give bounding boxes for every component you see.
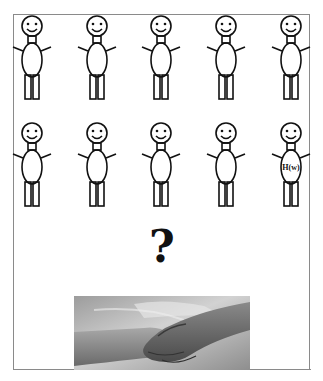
figure-neck	[287, 143, 295, 150]
figure-eye	[156, 130, 159, 133]
figure-body	[22, 43, 42, 77]
figure-smile	[221, 29, 231, 32]
figure-left-arm	[142, 47, 152, 51]
stick-figure	[142, 16, 180, 99]
stick-figure	[78, 123, 116, 206]
figure-left-arm	[78, 154, 88, 158]
figure-right-arm	[170, 47, 180, 51]
figure-head	[87, 123, 107, 143]
stick-figure	[142, 123, 180, 206]
figure-eye	[156, 23, 159, 26]
figure-right-leg	[227, 182, 233, 206]
figure-eye	[229, 130, 232, 133]
figure-eye	[294, 130, 297, 133]
figure-body	[87, 150, 107, 184]
figure-right-arm	[41, 47, 51, 51]
stick-figure	[207, 123, 245, 206]
figure-neck	[93, 36, 101, 43]
figure-right-leg	[33, 75, 39, 99]
figure-smile	[221, 136, 231, 139]
figure-eye	[286, 23, 289, 26]
figure-left-leg	[25, 182, 31, 206]
figure-head	[151, 16, 171, 36]
figure-head	[281, 123, 301, 143]
figure-left-arm	[78, 47, 88, 51]
figure-left-arm	[207, 154, 217, 158]
figure-smile	[27, 136, 37, 139]
figure-right-arm	[235, 154, 245, 158]
figure-head	[216, 123, 236, 143]
figure-smile	[27, 29, 37, 32]
figure-head	[151, 123, 171, 143]
stick-figure	[13, 16, 51, 99]
figure-neck	[28, 36, 36, 43]
figure-right-arm	[170, 154, 180, 158]
figure-right-leg	[33, 182, 39, 206]
question-mark: ?	[140, 222, 184, 272]
figure-left-leg	[154, 182, 160, 206]
figure-eye	[27, 130, 30, 133]
figure-left-leg	[90, 182, 96, 206]
figure-left-leg	[154, 75, 160, 99]
figure-eye	[221, 23, 224, 26]
figure-label: H(w)	[282, 163, 300, 172]
figure-right-arm	[41, 154, 51, 158]
figure-body	[216, 43, 236, 77]
figure-eye	[35, 130, 38, 133]
figure-right-leg	[292, 75, 298, 99]
figure-smile	[286, 136, 296, 139]
figure-body	[22, 150, 42, 184]
figure-right-arm	[235, 47, 245, 51]
figure-neck	[157, 143, 165, 150]
figure-head	[281, 16, 301, 36]
figure-left-arm	[272, 47, 282, 51]
stick-figure	[272, 16, 310, 99]
figure-head	[216, 16, 236, 36]
figure-left-arm	[13, 47, 23, 51]
figure-eye	[92, 23, 95, 26]
figure-body	[151, 43, 171, 77]
figure-left-leg	[284, 182, 290, 206]
figure-right-arm	[106, 47, 116, 51]
figure-right-arm	[300, 154, 310, 158]
figure-eye	[100, 23, 103, 26]
figure-smile	[156, 29, 166, 32]
figure-right-leg	[292, 182, 298, 206]
figure-body	[87, 43, 107, 77]
figure-neck	[93, 143, 101, 150]
figure-eye	[286, 130, 289, 133]
figure-right-arm	[300, 47, 310, 51]
figure-left-leg	[219, 75, 225, 99]
figure-right-leg	[98, 75, 104, 99]
figure-eye	[100, 130, 103, 133]
figure-body	[151, 150, 171, 184]
figure-head	[22, 16, 42, 36]
figure-eye	[92, 130, 95, 133]
figure-left-leg	[90, 75, 96, 99]
figure-left-leg	[284, 75, 290, 99]
figure-left-leg	[219, 182, 225, 206]
figure-left-arm	[142, 154, 152, 158]
figure-right-leg	[227, 75, 233, 99]
figure-right-leg	[162, 182, 168, 206]
figure-smile	[92, 29, 102, 32]
figure-right-leg	[162, 75, 168, 99]
figure-smile	[156, 136, 166, 139]
stick-figure	[207, 16, 245, 99]
handshake-photo	[74, 296, 250, 370]
figure-left-arm	[13, 154, 23, 158]
figure-eye	[294, 23, 297, 26]
figure-body	[281, 43, 301, 77]
figure-smile	[286, 29, 296, 32]
figure-left-arm	[207, 47, 217, 51]
stick-figure	[78, 16, 116, 99]
figure-eye	[27, 23, 30, 26]
figure-eye	[164, 130, 167, 133]
figure-head	[87, 16, 107, 36]
figure-eye	[35, 23, 38, 26]
figure-left-arm	[272, 154, 282, 158]
figure-neck	[28, 143, 36, 150]
stick-figure	[13, 123, 51, 206]
figure-head	[22, 123, 42, 143]
figure-body	[216, 150, 236, 184]
